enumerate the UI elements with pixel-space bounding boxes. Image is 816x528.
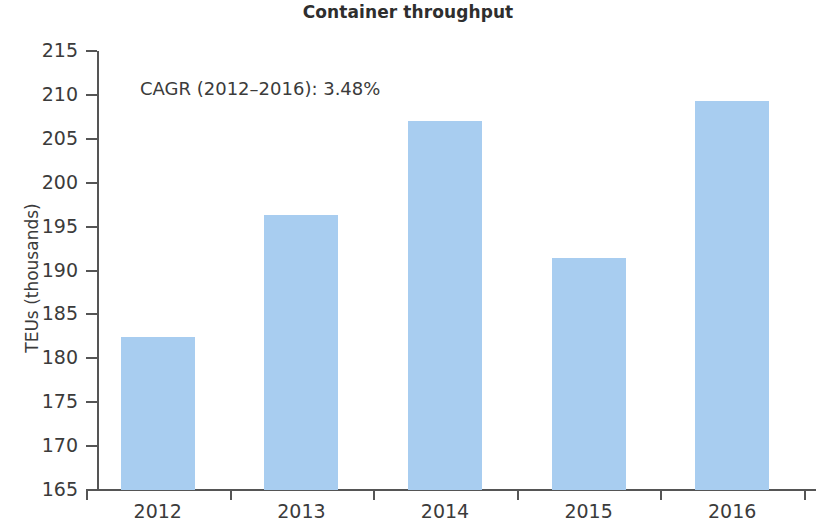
bar <box>552 258 626 490</box>
y-tick-label: 210 <box>10 85 78 104</box>
x-tick-mark <box>517 491 519 500</box>
y-tick-mark <box>86 182 97 184</box>
bar-chart: Container throughput TEUs (thousands) CA… <box>0 0 816 528</box>
y-axis-line <box>97 51 99 491</box>
bar <box>121 337 195 490</box>
y-tick-label: 190 <box>10 261 78 280</box>
y-tick-mark <box>86 401 97 403</box>
y-tick-label: 205 <box>10 129 78 148</box>
y-tick-mark <box>86 357 97 359</box>
y-tick-mark <box>86 94 97 96</box>
x-tick-mark <box>373 491 375 500</box>
chart-title: Container throughput <box>0 2 816 22</box>
y-tick-mark <box>86 226 97 228</box>
y-tick-mark <box>86 270 97 272</box>
y-tick-mark <box>86 50 97 52</box>
bar <box>408 121 482 490</box>
y-tick-label: 200 <box>10 173 78 192</box>
y-tick-mark <box>86 138 97 140</box>
x-tick-label: 2014 <box>371 502 519 521</box>
x-tick-label: 2016 <box>658 502 806 521</box>
x-tick-label: 2015 <box>515 502 663 521</box>
x-tick-mark <box>660 491 662 500</box>
y-tick-label: 165 <box>10 480 78 499</box>
bar <box>695 101 769 490</box>
cagr-annotation: CAGR (2012–2016): 3.48% <box>140 78 380 99</box>
x-tick-mark <box>230 491 232 500</box>
x-tick-mark <box>804 491 806 500</box>
y-tick-label: 215 <box>10 41 78 60</box>
y-tick-label: 175 <box>10 392 78 411</box>
bar <box>264 215 338 490</box>
x-tick-mark <box>86 491 88 500</box>
x-tick-label: 2012 <box>84 502 232 521</box>
y-tick-label: 195 <box>10 217 78 236</box>
y-tick-label: 180 <box>10 348 78 367</box>
y-tick-mark <box>86 313 97 315</box>
x-tick-label: 2013 <box>227 502 375 521</box>
y-tick-label: 185 <box>10 304 78 323</box>
y-tick-mark <box>86 445 97 447</box>
y-tick-label: 170 <box>10 436 78 455</box>
